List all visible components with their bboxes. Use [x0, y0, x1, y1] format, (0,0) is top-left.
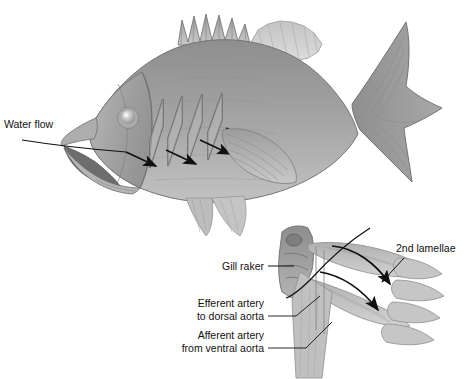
pelvic-fin: [186, 198, 213, 236]
second-lamellae-label: 2nd lamellae: [396, 242, 456, 254]
afferent-artery-label-line1: Afferent artery: [198, 329, 265, 341]
afferent-artery-label-line2: from ventral aorta: [182, 342, 264, 354]
gill-arch-detail: 2nd lamellae Gill raker Efferent artery …: [182, 226, 456, 378]
figure-canvas: Water flow: [0, 0, 470, 379]
eye: [118, 108, 139, 129]
efferent-artery-label-line1: Efferent artery: [198, 297, 265, 309]
whole-fish-lateral-view: Water flow: [4, 14, 442, 236]
water-flow-label: Water flow: [4, 118, 54, 130]
caudal-fin: [352, 22, 442, 182]
gill-filament-blade: [292, 272, 332, 378]
efferent-artery-label-line2: to dorsal aorta: [197, 310, 264, 322]
gill-raker-label: Gill raker: [222, 260, 265, 272]
anal-fin: [212, 196, 246, 236]
